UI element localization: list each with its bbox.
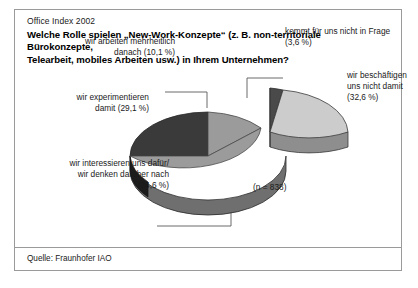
label-interessieren-line-1: wir interessieren uns dafür/ bbox=[15, 158, 169, 169]
label-interessieren: wir interessieren uns dafür/ wir denken … bbox=[15, 158, 169, 192]
leader-mehrheitlich bbox=[165, 92, 207, 108]
label-nicht-in-frage-line-1: kommt für uns nicht in Frage bbox=[285, 26, 405, 37]
figure-kicker: Office Index 2002 bbox=[27, 16, 95, 26]
pie-chart bbox=[15, 56, 401, 241]
label-experimentieren: wir experimentieren damit (29,1 %) bbox=[15, 92, 149, 114]
slice-beschaeftigen bbox=[270, 90, 348, 138]
label-beschaeftigen-line-1: wir beschäftigen bbox=[347, 70, 417, 81]
label-nicht-in-frage: kommt für uns nicht in Frage (3,6 %) bbox=[285, 26, 405, 48]
label-interessieren-line-3: (24,6 %) bbox=[15, 180, 169, 191]
label-mehrheitlich-line-2: danach (10,1 %) bbox=[23, 47, 175, 58]
label-interessieren-line-2: wir denken darüber nach bbox=[15, 169, 169, 180]
label-beschaeftigen: wir beschäftigen uns nicht damit (32,6 %… bbox=[347, 70, 417, 104]
label-experimentieren-line-1: wir experimentieren bbox=[15, 92, 149, 103]
figure-panel: Office Index 2002 Welche Rolle spielen „… bbox=[14, 9, 402, 271]
label-nicht-in-frage-line-2: (3,6 %) bbox=[285, 37, 405, 48]
label-experimentieren-line-2: damit (29,1 %) bbox=[15, 103, 149, 114]
label-beschaeftigen-line-3: (32,6 %) bbox=[347, 92, 417, 103]
sample-size-label: (n = 838) bbox=[253, 182, 323, 193]
label-mehrheitlich-line-1: wir arbeiten mehrheitlich bbox=[23, 36, 175, 47]
slice-experimentieren bbox=[130, 112, 208, 156]
label-mehrheitlich: wir arbeiten mehrheitlich danach (10,1 %… bbox=[23, 36, 175, 58]
pie-chart-svg bbox=[15, 56, 401, 241]
label-beschaeftigen-line-2: uns nicht damit bbox=[347, 81, 417, 92]
footer-divider bbox=[15, 247, 401, 248]
pie-exploded-group bbox=[270, 88, 348, 153]
source-note: Quelle: Fraunhofer IAO bbox=[27, 254, 112, 263]
